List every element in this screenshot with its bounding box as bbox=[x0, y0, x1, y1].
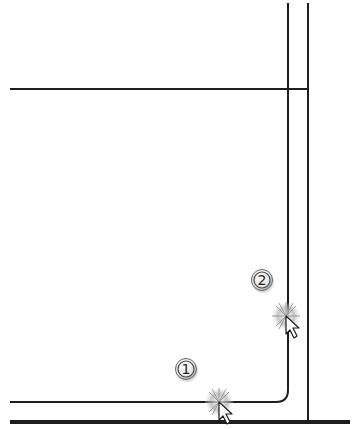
step-badge-2: 2 bbox=[252, 270, 275, 294]
inner-filleted-line bbox=[10, 3, 288, 402]
step-badge-2-number: 2 bbox=[258, 272, 267, 288]
diagram-canvas: 1 2 bbox=[0, 0, 356, 429]
step-badge-1-number: 1 bbox=[182, 361, 191, 377]
step-badge-1: 1 bbox=[176, 359, 199, 383]
